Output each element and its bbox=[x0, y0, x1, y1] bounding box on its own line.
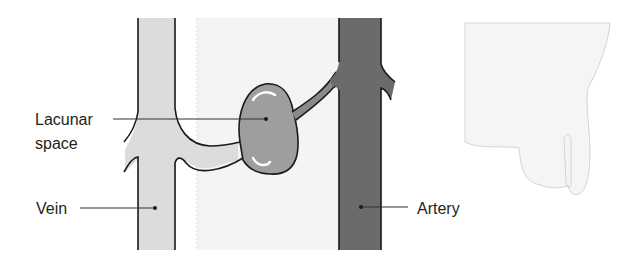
lacunar-leader-dot bbox=[264, 117, 268, 121]
artery-outline-right bbox=[381, 18, 395, 250]
faint-tissue-shape bbox=[465, 23, 610, 195]
lacunar-space bbox=[239, 84, 298, 174]
vein-outline-left-upper bbox=[124, 18, 138, 142]
artery-leader-dot bbox=[359, 205, 363, 209]
label-space: space bbox=[35, 135, 78, 152]
label-artery: Artery bbox=[417, 200, 460, 217]
lacunar-space-diagram: Lacunar space Vein Artery bbox=[0, 0, 638, 270]
vein-leader-dot bbox=[153, 206, 157, 210]
label-vein: Vein bbox=[36, 200, 67, 217]
label-lacunar: Lacunar bbox=[35, 111, 93, 128]
